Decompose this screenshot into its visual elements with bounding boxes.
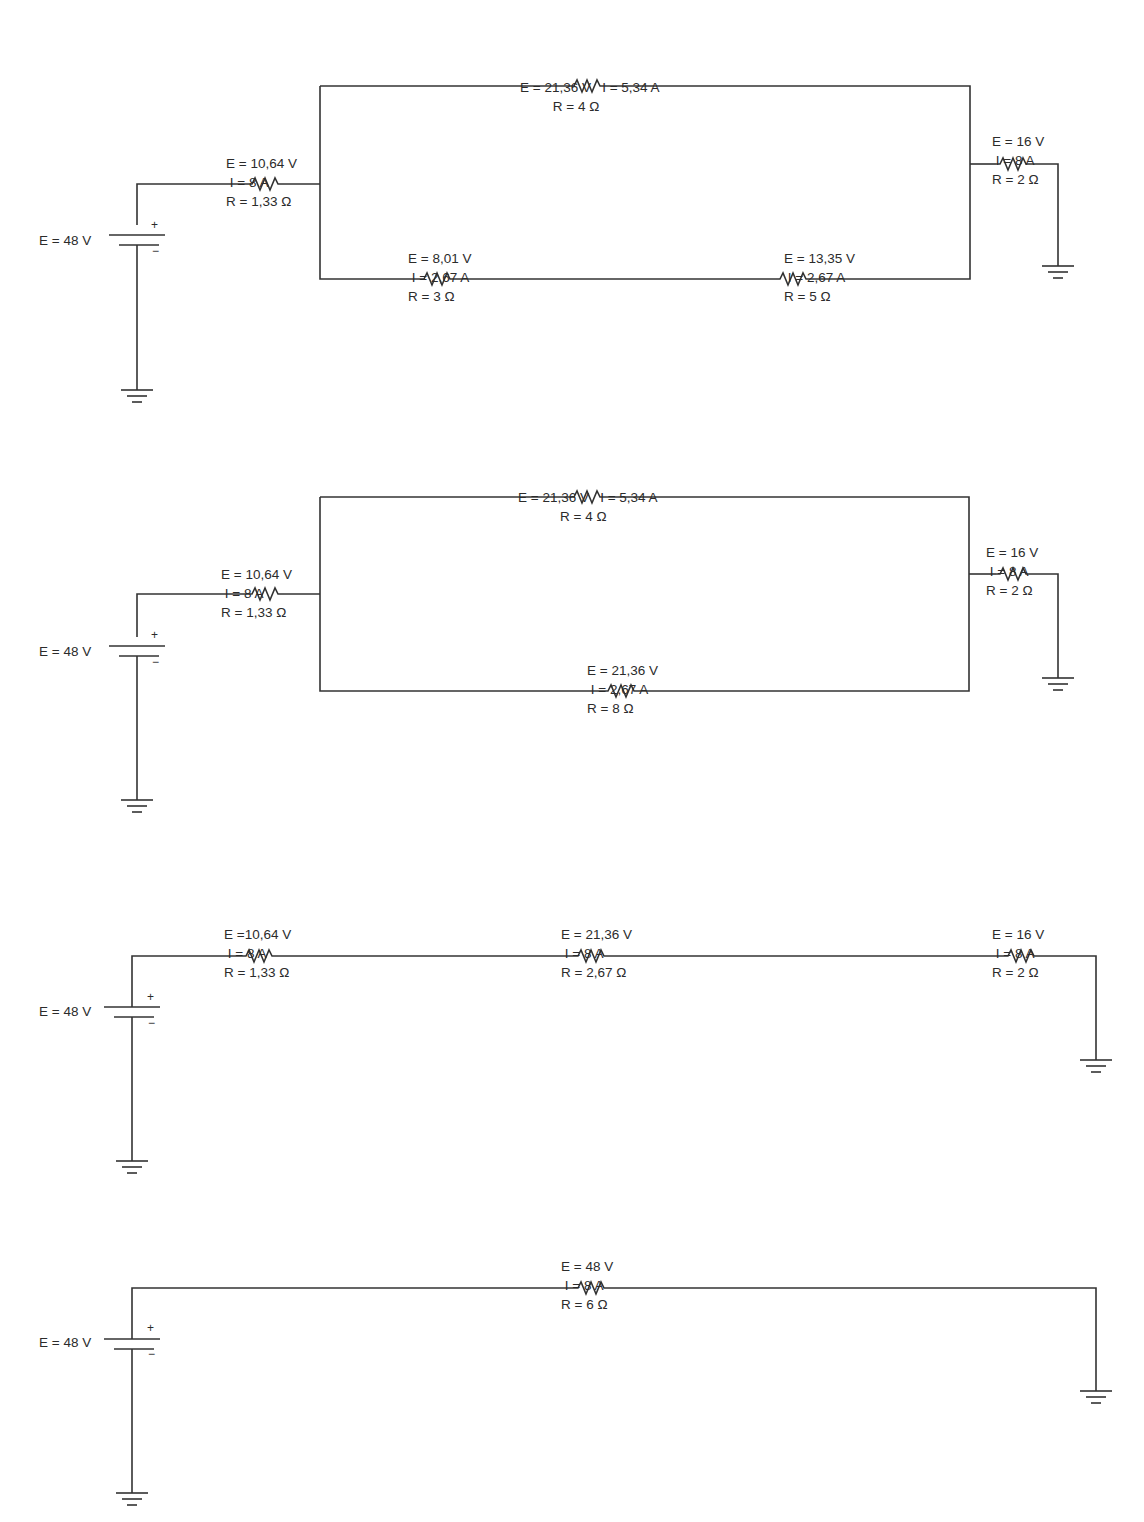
ground-icon — [116, 1493, 148, 1505]
source-voltage-label: E = 48 V — [39, 642, 91, 661]
source-voltage-label: E = 48 V — [39, 231, 91, 250]
resistor-r5-label: E = 16 V I = 8 AR = 2 Ω — [992, 887, 1044, 1001]
resistor-r2-label: E = 21,36 V I = 5,34 AR = 4 Ω — [518, 450, 658, 545]
resistor-r5-label: E = 16 V I = 8 AR = 2 Ω — [992, 94, 1044, 208]
plus-sign: + — [147, 1321, 154, 1335]
minus-sign: − — [148, 1016, 155, 1030]
minus-sign: − — [148, 1347, 155, 1361]
resistor-r34-label: E = 21,36 V I = 2,67 AR = 8 Ω — [587, 623, 658, 737]
ground-icon — [116, 1161, 148, 1173]
resistor-r4-label: E = 13,35 V I = 2,67 AR = 5 Ω — [784, 211, 855, 325]
source-voltage-label: E = 48 V — [39, 1333, 91, 1352]
ground-icon — [121, 390, 153, 402]
ground-icon — [1042, 266, 1074, 278]
plus-sign: + — [147, 990, 154, 1004]
plus-sign: + — [151, 628, 158, 642]
minus-sign: − — [152, 655, 159, 669]
ground-icon — [121, 800, 153, 812]
resistor-r1-label: E = 10,64 V I = 8 AR = 1,33 Ω — [226, 116, 297, 230]
minus-sign: − — [152, 244, 159, 258]
ground-icon — [1080, 1391, 1112, 1403]
ground-icon — [1042, 678, 1074, 690]
ground-icon — [1080, 1060, 1112, 1072]
resistor-rtotal-label: E = 48 V I = 8 AR = 6 Ω — [561, 1219, 613, 1333]
resistor-r5-label: E = 16 V I = 8 AR = 2 Ω — [986, 505, 1038, 619]
plus-sign: + — [151, 218, 158, 232]
resistor-r234-label: E = 21,36 V I = 8 AR = 2,67 Ω — [561, 887, 632, 1001]
resistor-r1-label: E =10,64 V I = 8 AR = 1,33 Ω — [224, 887, 291, 1001]
source-voltage-label: E = 48 V — [39, 1002, 91, 1021]
resistor-r2-label: E = 21,36 V I = 5,34 AR = 4 Ω — [520, 40, 700, 135]
resistor-r1-label: E = 10,64 V I = 8 AR = 1,33 Ω — [221, 527, 292, 641]
resistor-r3-label: E = 8,01 V I = 2,67 AR = 3 Ω — [408, 211, 471, 325]
